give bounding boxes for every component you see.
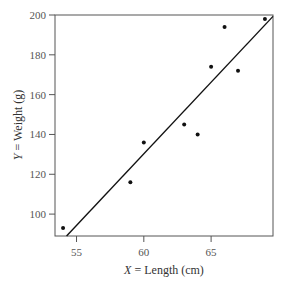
y-tick-label: 200: [30, 9, 47, 21]
y-tick-label: 120: [30, 168, 47, 180]
data-points: [61, 17, 267, 230]
data-point: [236, 69, 240, 73]
y-tick-label: 160: [30, 89, 47, 101]
data-point: [128, 180, 132, 184]
data-point: [182, 123, 186, 127]
x-tick-label: 65: [206, 246, 218, 258]
scatter-chart: 100120140160180200 556065 X = Length (cm…: [0, 0, 289, 285]
data-point: [61, 226, 65, 230]
x-tick-label: 55: [71, 246, 83, 258]
x-tick-label: 60: [138, 246, 150, 258]
data-point: [209, 65, 213, 69]
data-point: [196, 132, 200, 136]
y-tick-label: 140: [30, 128, 47, 140]
y-tick-label: 180: [30, 49, 47, 61]
data-point: [142, 140, 146, 144]
y-axis-ticks: 100120140160180200: [30, 9, 56, 220]
y-tick-label: 100: [30, 208, 47, 220]
data-point: [263, 17, 267, 21]
data-point: [223, 25, 227, 29]
x-axis-label: X = Length (cm): [123, 263, 204, 277]
regression-line: [67, 16, 273, 236]
x-axis-ticks: 556065: [71, 236, 217, 258]
y-axis-label: Y = Weight (g): [11, 90, 25, 161]
plot-frame: [55, 15, 273, 236]
